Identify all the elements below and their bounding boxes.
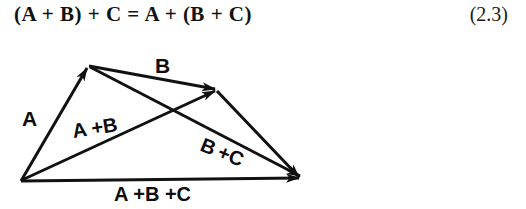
equation-expression: (A + B) + C = A + (B + C) <box>14 2 252 27</box>
equation-number: (2.3) <box>470 3 508 26</box>
vector-label-a-plus-b-plus-c: A +B +C <box>114 184 191 204</box>
vector-a-plus-b-plus-c-line <box>21 178 299 181</box>
figure-page: (A + B) + C = A + (B + C) (2.3) A B <box>0 0 526 209</box>
vector-addition-diagram: A B A +B B +C A +B +C <box>0 33 330 209</box>
vector-a-plus-b-line <box>22 91 215 180</box>
vector-label-b: B <box>155 55 170 76</box>
vector-b-plus-c-line <box>90 67 300 176</box>
vector-label-a: A <box>22 108 37 129</box>
